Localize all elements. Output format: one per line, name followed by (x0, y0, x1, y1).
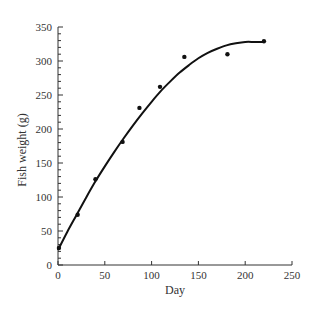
x-tick-label: 250 (284, 269, 301, 281)
x-tick-label: 200 (237, 269, 254, 281)
data-point (93, 177, 97, 181)
data-point (158, 85, 162, 89)
x-axis-label: Day (165, 283, 185, 297)
x-tick-label: 150 (190, 269, 207, 281)
fitted-curve (58, 42, 264, 250)
chart: 050100150200250300350 050100150200250 Da… (0, 0, 314, 309)
x-axis-ticks: 050100150200250 (55, 261, 301, 281)
x-tick-label: 100 (143, 269, 160, 281)
y-tick-label: 100 (36, 191, 53, 203)
data-point (262, 39, 266, 43)
y-tick-label: 200 (36, 123, 53, 135)
x-tick-label: 0 (55, 269, 61, 281)
fitted-curve-path (58, 42, 264, 250)
y-tick-label: 350 (36, 21, 53, 33)
data-points (57, 39, 266, 250)
y-tick-label: 250 (36, 89, 53, 101)
y-axis-ticks: 050100150200250300350 (36, 21, 64, 271)
data-point (120, 140, 124, 144)
chart-svg: 050100150200250300350 050100150200250 Da… (0, 0, 314, 309)
y-tick-label: 300 (36, 55, 53, 67)
data-point (182, 55, 186, 59)
y-tick-label: 50 (41, 225, 53, 237)
y-tick-label: 150 (36, 157, 53, 169)
data-point (137, 106, 141, 110)
y-tick-label: 0 (47, 259, 53, 271)
axes (58, 27, 292, 265)
data-point (225, 52, 229, 56)
x-tick-label: 50 (99, 269, 111, 281)
data-point (57, 246, 61, 250)
y-axis-label: Fish weight (g) (15, 113, 29, 186)
data-point (75, 212, 79, 216)
